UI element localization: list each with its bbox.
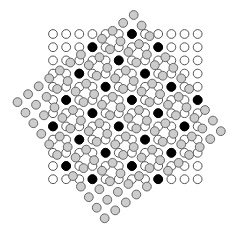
coincidence-site — [167, 148, 176, 157]
rotated-lattice-site — [137, 87, 146, 96]
reference-lattice-site — [62, 43, 71, 52]
coincidence-site — [101, 82, 110, 91]
rotated-lattice-site — [201, 106, 210, 115]
rotated-lattice-site — [209, 116, 218, 125]
coincidence-site — [141, 69, 150, 78]
rotated-lattice-site — [29, 119, 38, 128]
rotated-lattice-site — [82, 145, 91, 154]
coincidence-site — [193, 96, 202, 105]
rotated-lattice-site — [190, 114, 199, 123]
rotated-lattice-site — [195, 143, 204, 152]
rotated-lattice-site — [145, 32, 154, 41]
rotated-lattice-site — [116, 37, 125, 46]
rotated-lattice-site — [92, 203, 101, 212]
rotated-lattice-site — [24, 90, 33, 99]
rotated-lattice-site — [158, 71, 167, 80]
rotated-lattice-site — [177, 140, 186, 149]
rotated-lattice-site — [106, 111, 115, 120]
rotated-lattice-site — [77, 50, 86, 59]
reference-lattice-site — [167, 43, 176, 52]
coincidence-site — [141, 135, 150, 144]
rotated-lattice-site — [129, 77, 138, 86]
rotated-lattice-site — [58, 114, 67, 123]
coincidence-site — [101, 148, 110, 157]
rotated-lattice-site — [172, 111, 181, 120]
reference-lattice-site — [154, 30, 163, 39]
rotated-lattice-site — [156, 90, 165, 99]
rotated-lattice-site — [145, 164, 154, 173]
rotated-lattice-site — [108, 26, 117, 35]
rotated-lattice-site — [185, 85, 194, 94]
coincidence-site — [62, 162, 71, 171]
rotated-lattice-site — [77, 116, 86, 125]
coincidence-site — [167, 82, 176, 91]
rotated-lattice-site — [77, 182, 86, 191]
rotated-lattice-site — [98, 166, 107, 175]
rotated-lattice-site — [55, 132, 64, 141]
rotated-lattice-site — [164, 100, 173, 109]
rotated-lattice-site — [103, 63, 112, 72]
rotated-lattice-site — [42, 92, 51, 101]
rotated-lattice-site — [143, 116, 152, 125]
coincidence-site — [154, 43, 163, 52]
rotated-lattice-site — [66, 124, 75, 133]
coincidence-site — [88, 43, 97, 52]
coincidence-site — [114, 56, 123, 65]
coincidence-site — [154, 175, 163, 184]
rotated-lattice-site — [13, 98, 22, 107]
reference-lattice-site — [193, 30, 202, 39]
rotated-lattice-site — [135, 40, 144, 49]
reference-lattice-site — [75, 30, 84, 39]
reference-lattice-site — [167, 30, 176, 39]
rotated-lattice-site — [150, 61, 159, 70]
rotated-lattice-site — [121, 132, 130, 141]
rotated-lattice-site — [206, 135, 215, 144]
lattice-diagram — [0, 0, 240, 236]
rotated-lattice-site — [119, 151, 128, 160]
reference-lattice-site — [193, 175, 202, 184]
rotated-lattice-site — [216, 127, 225, 136]
rotated-lattice-site — [84, 193, 93, 202]
coincidence-site — [88, 109, 97, 118]
reference-lattice-site — [49, 162, 58, 171]
rotated-lattice-site — [185, 151, 194, 160]
rotated-lattice-site — [90, 90, 99, 99]
rotated-lattice-site — [50, 103, 59, 112]
rotated-lattice-site — [121, 198, 130, 207]
reference-lattice-site — [49, 43, 58, 52]
rotated-lattice-site — [98, 100, 107, 109]
rotated-lattice-site — [95, 53, 104, 62]
rotated-lattice-site — [53, 85, 62, 94]
coincidence-site — [127, 162, 136, 171]
rotated-lattice-site — [143, 50, 152, 59]
rotated-lattice-site — [108, 92, 117, 101]
rotated-lattice-site — [143, 182, 152, 191]
rotated-lattice-site — [137, 153, 146, 162]
rotated-lattice-site — [132, 190, 141, 199]
rotated-lattice-site — [79, 98, 88, 107]
rotated-lattice-site — [34, 82, 43, 91]
rotated-lattice-site — [98, 34, 107, 43]
reference-lattice-site — [88, 30, 97, 39]
rotated-lattice-site — [103, 195, 112, 204]
rotated-lattice-site — [124, 180, 133, 189]
reference-lattice-site — [180, 56, 189, 65]
rotated-lattice-site — [161, 53, 170, 62]
rotated-lattice-site — [113, 187, 122, 196]
rotated-lattice-site — [174, 158, 183, 167]
reference-lattice-site — [62, 30, 71, 39]
rotated-lattice-site — [84, 127, 93, 136]
rotated-lattice-site — [111, 140, 120, 149]
coincidence-site — [127, 96, 136, 105]
rotated-lattice-site — [95, 185, 104, 194]
rotated-lattice-site — [129, 143, 138, 152]
reference-lattice-site — [193, 162, 202, 171]
rotated-lattice-site — [145, 98, 154, 107]
rotated-lattice-site — [148, 145, 157, 154]
rotated-lattice-site — [119, 19, 128, 28]
rotated-lattice-site — [92, 137, 101, 146]
rotated-lattice-site — [55, 66, 64, 75]
rotated-lattice-site — [21, 108, 30, 117]
rotated-lattice-site — [177, 74, 186, 83]
rotated-lattice-site — [108, 158, 117, 167]
